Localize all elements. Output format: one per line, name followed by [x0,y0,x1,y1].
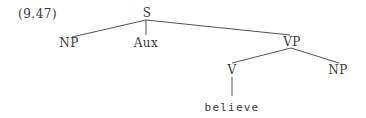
syntax-tree-diagram: (9.47) S NP Aux VP V NP believe [0,0,366,118]
leaf-believe: believe [205,102,260,114]
edge-vp-np [291,48,339,63]
edge-vp-v [232,48,291,63]
node-aux: Aux [134,37,159,49]
node-s: S [143,7,152,19]
edge-s-np [72,20,146,37]
node-np-subject: NP [59,37,79,49]
node-vp: VP [283,36,301,48]
example-number: (9.47) [18,8,57,20]
edge-s-vp [146,20,290,35]
node-v: V [227,64,236,76]
node-np-object: NP [328,64,348,76]
